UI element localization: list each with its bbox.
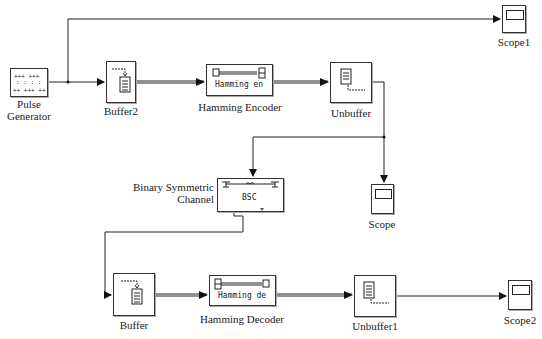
scope1-label: Scope1 bbox=[494, 36, 534, 48]
label-line: Binary Symmetric bbox=[128, 181, 214, 193]
buffer2-label: Buffer2 bbox=[96, 105, 146, 117]
scope1-block[interactable] bbox=[502, 5, 526, 33]
label-line: Pulse bbox=[2, 98, 56, 110]
hamming-encoder-label: Hamming Encoder bbox=[190, 101, 290, 113]
pulse-train-icon: +++ +++ : : : : ++ +++ ++ bbox=[11, 69, 47, 96]
binary-symmetric-channel-block[interactable]: BSC bbox=[217, 178, 284, 212]
simulink-canvas: +++ +++ : : : : ++ +++ ++ Pulse Generato… bbox=[0, 0, 542, 339]
scope-screen-icon bbox=[506, 10, 524, 20]
buffer-label: Buffer bbox=[109, 319, 159, 331]
scope-block[interactable] bbox=[371, 184, 394, 214]
hamming-codeword-icon bbox=[207, 66, 272, 80]
scope-screen-icon bbox=[375, 189, 392, 199]
scope-screen-icon bbox=[512, 285, 530, 295]
buffer-icon bbox=[114, 274, 154, 315]
svg-text:: : : :: : : : : bbox=[16, 78, 41, 85]
unbuffer-block[interactable] bbox=[330, 62, 372, 103]
pulse-generator-label: Pulse Generator bbox=[2, 98, 56, 122]
buffer-block[interactable] bbox=[113, 273, 155, 316]
unbuffer-icon bbox=[355, 276, 395, 316]
unbuffer1-block[interactable] bbox=[354, 275, 396, 317]
buffer2-block[interactable] bbox=[106, 61, 136, 103]
hamming-decoder-label: Hamming Decoder bbox=[192, 313, 292, 325]
unbuffer1-label: Unbuffer1 bbox=[350, 320, 400, 332]
bsc-label: Binary Symmetric Channel bbox=[128, 181, 214, 205]
hamming-decoder-block[interactable]: Hamming de bbox=[209, 275, 276, 306]
hamming-encoder-inner-text: Hamming en bbox=[215, 80, 263, 89]
hamming-encoder-block[interactable]: Hamming en bbox=[206, 64, 273, 96]
svg-text:++ +++ ++: ++ +++ ++ bbox=[13, 86, 46, 93]
label-line: Channel bbox=[128, 193, 214, 205]
unbuffer-label: Unbuffer bbox=[326, 107, 376, 119]
scope2-block[interactable] bbox=[508, 280, 532, 310]
label-line: Generator bbox=[2, 110, 56, 122]
buffer-icon bbox=[107, 62, 135, 102]
scope2-label: Scope2 bbox=[500, 314, 540, 326]
unbuffer-icon bbox=[331, 63, 371, 102]
pulse-generator-block[interactable]: +++ +++ : : : : ++ +++ ++ bbox=[10, 68, 48, 97]
bsc-error-port bbox=[260, 208, 264, 211]
bsc-inner-text: BSC bbox=[242, 193, 256, 202]
scope-label: Scope bbox=[362, 218, 402, 230]
hamming-codeword-icon bbox=[210, 277, 275, 291]
channel-icon bbox=[218, 179, 283, 191]
hamming-decoder-inner-text: Hamming de bbox=[218, 291, 266, 300]
